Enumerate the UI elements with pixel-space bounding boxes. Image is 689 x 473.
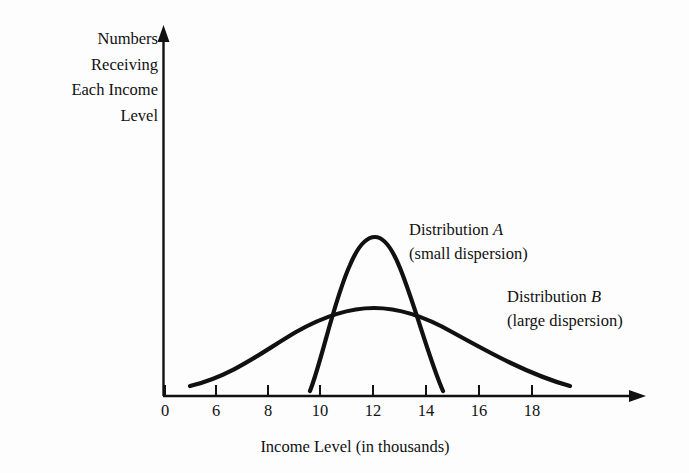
y-axis-label-line-2: Receiving <box>91 55 158 74</box>
x-tick-label-10: 10 <box>300 401 340 421</box>
x-axis-label: Income Level (in thousands) <box>160 437 550 456</box>
y-axis-arrow-icon <box>158 25 170 42</box>
annotation-distribution-a: Distribution A(small dispersion) <box>409 218 528 266</box>
annotation-b-symbol: B <box>591 287 601 306</box>
annotation-b-title: Distribution <box>507 287 591 306</box>
annotation-distribution-b: Distribution B(large dispersion) <box>507 285 623 333</box>
x-tick-label-14: 14 <box>406 401 446 421</box>
x-axis-arrow-icon <box>629 390 646 402</box>
x-tick-label-12: 12 <box>353 401 393 421</box>
annotation-a-symbol: A <box>493 220 503 239</box>
annotation-b-subtitle: (large dispersion) <box>507 311 623 330</box>
y-axis <box>158 25 170 396</box>
annotation-a-subtitle: (small dispersion) <box>409 244 528 263</box>
distribution-comparison-chart: NumbersReceivingEach IncomeLevel 0 6 8 1… <box>0 0 689 473</box>
x-tick-label-8: 8 <box>248 401 288 421</box>
y-axis-label: NumbersReceivingEach IncomeLevel <box>20 26 158 128</box>
x-axis-ticks <box>165 385 532 396</box>
annotation-a-title: Distribution <box>409 220 493 239</box>
x-tick-label-0: 0 <box>145 401 185 421</box>
y-axis-label-line-4: Level <box>120 106 158 125</box>
x-tick-label-6: 6 <box>196 401 236 421</box>
x-tick-label-18: 18 <box>512 401 552 421</box>
x-tick-label-16: 16 <box>459 401 499 421</box>
y-axis-label-line-3: Each Income <box>71 80 158 99</box>
y-axis-label-line-1: Numbers <box>98 29 159 48</box>
